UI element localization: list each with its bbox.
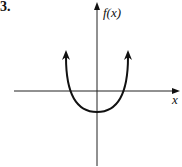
y-axis-label: f(x) bbox=[103, 5, 121, 20]
x-axis-label: x bbox=[171, 92, 178, 107]
graph: f(x) x bbox=[0, 0, 182, 167]
